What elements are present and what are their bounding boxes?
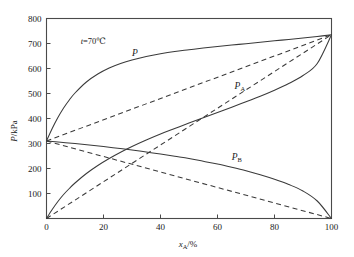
curve-label-PA: PA <box>234 81 246 92</box>
chart-canvas: 100200300400500600700800020406080100 P/k… <box>0 0 354 257</box>
curve-label-PB: PB <box>231 152 243 163</box>
y-tick-label: 300 <box>28 139 42 149</box>
y-tick-label: 800 <box>28 14 42 24</box>
curve-p-a-partial-real- <box>47 35 332 219</box>
x-tick-label: 100 <box>325 222 339 232</box>
y-tick-label: 200 <box>28 164 42 174</box>
x-tick-label: 20 <box>99 222 109 232</box>
curve-p-total-ideal-raoult- <box>47 35 332 141</box>
x-tick-label: 60 <box>213 222 223 232</box>
y-axis-label-text: P/kPa <box>9 120 19 143</box>
y-tick-label: 400 <box>28 114 42 124</box>
y-tick-label: 500 <box>28 89 42 99</box>
x-tick-label: 40 <box>156 222 166 232</box>
x-tick-label: 80 <box>270 222 280 232</box>
vapour-pressure-chart: 100200300400500600700800020406080100 P/k… <box>0 0 354 257</box>
plot-frame <box>47 19 332 219</box>
y-tick-label: 700 <box>28 39 42 49</box>
y-axis-label: P/kPa <box>9 120 19 143</box>
x-axis-label-text: xA/% <box>178 239 198 250</box>
chart-annotations: t=70℃ <box>81 36 106 46</box>
y-tick-label: 100 <box>28 189 42 199</box>
x-tick-label: 0 <box>44 222 49 232</box>
data-curves <box>47 35 332 219</box>
annotation-temperature: t=70℃ <box>81 36 106 46</box>
axis-tick-labels: 100200300400500600700800020406080100 <box>28 14 339 232</box>
plot-border <box>47 19 332 219</box>
y-tick-label: 600 <box>28 64 42 74</box>
curve-p-b-ideal-raoult- <box>47 141 332 219</box>
x-axis-label: xA/% <box>178 239 198 250</box>
axis-ticks <box>47 19 332 219</box>
curve-label-P: P <box>131 48 138 58</box>
curve-labels: PPAPB <box>131 48 245 163</box>
curve-p-a-ideal-raoult- <box>47 35 332 219</box>
